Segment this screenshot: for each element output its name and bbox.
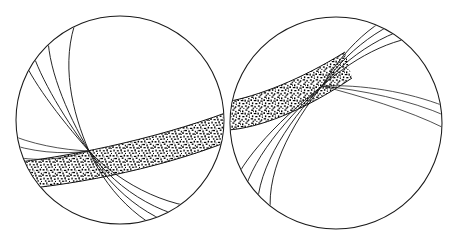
- left-sphere-group: [3, 16, 232, 238]
- right-sphere-group: [226, 8, 446, 229]
- sphere-diagram: [0, 0, 462, 238]
- figure-container: [0, 0, 462, 238]
- left-sphere-outline: [16, 16, 224, 224]
